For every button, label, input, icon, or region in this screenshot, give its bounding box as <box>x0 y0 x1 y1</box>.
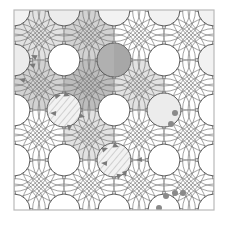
node-circle[interactable] <box>48 144 80 176</box>
contact-dot <box>172 190 178 196</box>
node-circle[interactable] <box>148 144 180 176</box>
node-circle[interactable] <box>148 44 180 76</box>
node-circle[interactable] <box>48 44 80 76</box>
node-hatch-fill <box>48 94 81 127</box>
lattice-node[interactable] <box>47 93 81 127</box>
lattice-node[interactable] <box>48 44 80 76</box>
contact-dot <box>163 193 169 199</box>
node-circle[interactable] <box>98 94 130 126</box>
node-circle[interactable] <box>147 93 181 127</box>
lattice-node[interactable] <box>148 144 180 176</box>
lattice-node[interactable] <box>48 144 80 176</box>
contact-dot <box>180 190 186 196</box>
lattice-diagram <box>0 0 227 232</box>
lattice-node[interactable] <box>147 93 181 127</box>
contact-dot <box>172 110 178 116</box>
contact-dot <box>168 121 174 127</box>
lattice-node[interactable] <box>148 44 180 76</box>
lattice-node[interactable] <box>98 94 130 126</box>
figure-root <box>0 0 227 232</box>
lattice-node[interactable] <box>97 43 131 77</box>
